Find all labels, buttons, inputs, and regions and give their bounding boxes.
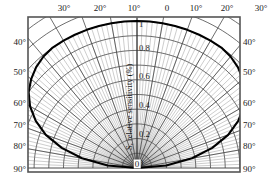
origin-label: 0	[134, 160, 141, 169]
radial-tick: 0.8	[139, 44, 150, 53]
radial-tick: 0.6	[139, 72, 150, 81]
top-angle-tick: 20°	[94, 4, 107, 13]
left-angle-tick: 60°	[13, 99, 26, 108]
radial-tick: 0.2	[139, 130, 150, 139]
right-angle-tick: 60°	[243, 99, 256, 108]
right-angle-tick: 70°	[243, 121, 256, 130]
top-angle-tick: 0	[165, 4, 170, 13]
left-angle-tick: 40°	[13, 38, 26, 47]
right-angle-tick: 40°	[243, 38, 256, 47]
radial-tick: 1	[139, 20, 143, 29]
radial-axis-title: S, relative sensitivity (%)	[124, 64, 134, 150]
left-angle-tick: 50°	[13, 68, 26, 77]
top-angle-tick: 30°	[58, 4, 71, 13]
radial-tick: 0.4	[139, 101, 150, 110]
left-angle-tick: 70°	[13, 121, 26, 130]
top-angle-tick: 10°	[190, 4, 203, 13]
left-angle-tick: 90°	[13, 165, 26, 174]
left-angle-tick: 80°	[13, 142, 26, 151]
right-angle-tick: 50°	[243, 68, 256, 77]
top-angle-tick: 20°	[221, 4, 234, 13]
top-angle-tick: 10°	[128, 4, 141, 13]
right-angle-tick: 90°	[243, 165, 256, 174]
top-angle-tick: 30°	[255, 4, 268, 13]
polar-sensitivity-figure: 30°20°10°010°20°30° 40°50°60°70°80°90° 4…	[0, 0, 272, 186]
right-angle-tick: 80°	[243, 142, 256, 151]
